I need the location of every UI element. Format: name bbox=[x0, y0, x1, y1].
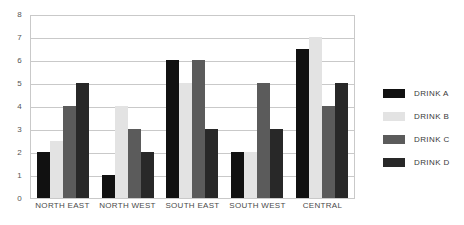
bar bbox=[296, 49, 309, 199]
y-tick-label: 3 bbox=[17, 126, 22, 134]
bar bbox=[115, 106, 128, 198]
bar bbox=[335, 83, 348, 198]
bar bbox=[50, 141, 63, 199]
bar bbox=[231, 152, 244, 198]
legend-swatch-icon bbox=[383, 135, 405, 144]
legend-label: DRINK D bbox=[414, 158, 450, 167]
legend-label: DRINK A bbox=[414, 89, 449, 98]
bar bbox=[205, 129, 218, 198]
bar bbox=[128, 129, 141, 198]
bar bbox=[141, 152, 154, 198]
bar bbox=[270, 129, 283, 198]
bar-group bbox=[289, 16, 354, 198]
bar bbox=[76, 83, 89, 198]
y-tick-label: 7 bbox=[17, 34, 22, 42]
legend-item[interactable]: DRINK B bbox=[383, 105, 450, 128]
legend-swatch-icon bbox=[383, 112, 405, 121]
x-tick-label: CENTRAL bbox=[290, 201, 355, 210]
bar bbox=[309, 37, 322, 198]
bar bbox=[322, 106, 335, 198]
plot-area bbox=[30, 15, 355, 199]
x-tick-label: NORTH EAST bbox=[30, 201, 95, 210]
legend-item[interactable]: DRINK D bbox=[383, 151, 450, 174]
bars-layer bbox=[31, 16, 354, 198]
y-tick-label: 0 bbox=[17, 195, 22, 203]
bar-group bbox=[225, 16, 290, 198]
y-tick-label: 4 bbox=[17, 103, 22, 111]
y-axis: 012345678 bbox=[0, 15, 28, 199]
chart-legend: DRINK ADRINK BDRINK CDRINK D bbox=[383, 82, 450, 174]
bar bbox=[63, 106, 76, 198]
bar-group bbox=[160, 16, 225, 198]
legend-swatch-icon bbox=[383, 158, 405, 167]
legend-swatch-icon bbox=[383, 89, 405, 98]
x-tick-label: NORTH WEST bbox=[95, 201, 160, 210]
legend-item[interactable]: DRINK A bbox=[383, 82, 450, 105]
legend-label: DRINK C bbox=[414, 135, 450, 144]
y-tick-label: 6 bbox=[17, 57, 22, 65]
bar bbox=[166, 60, 179, 198]
y-tick-label: 2 bbox=[17, 149, 22, 157]
bar bbox=[179, 83, 192, 198]
bar bbox=[102, 175, 115, 198]
legend-label: DRINK B bbox=[414, 112, 449, 121]
x-tick-label: SOUTH EAST bbox=[160, 201, 225, 210]
y-tick-label: 8 bbox=[17, 11, 22, 19]
bar bbox=[192, 60, 205, 198]
bar-group bbox=[96, 16, 161, 198]
bar bbox=[37, 152, 50, 198]
y-tick-label: 5 bbox=[17, 80, 22, 88]
x-axis: NORTH EASTNORTH WESTSOUTH EASTSOUTH WEST… bbox=[30, 201, 355, 210]
y-tick-label: 1 bbox=[17, 172, 22, 180]
bar bbox=[244, 152, 257, 198]
bar-group bbox=[31, 16, 96, 198]
bar-chart: 012345678 NORTH EASTNORTH WESTSOUTH EAST… bbox=[0, 0, 464, 225]
x-tick-label: SOUTH WEST bbox=[225, 201, 290, 210]
legend-item[interactable]: DRINK C bbox=[383, 128, 450, 151]
bar bbox=[257, 83, 270, 198]
